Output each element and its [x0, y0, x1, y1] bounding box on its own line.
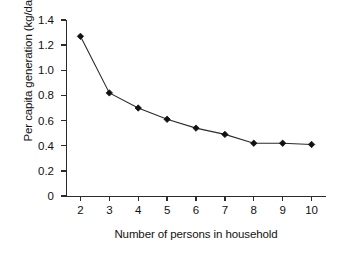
x-axis-tick: [138, 196, 139, 201]
y-axis-tick-label: 0.6: [38, 115, 54, 127]
y-axis-title: Per capita generation (kg/day): [22, 0, 34, 166]
y-axis-tick-label: 1.0: [38, 64, 54, 76]
data-point-marker: [222, 131, 228, 137]
data-point-marker: [308, 141, 314, 147]
data-point-marker: [135, 105, 141, 111]
x-axis-tick-label: 10: [305, 204, 318, 216]
x-axis-tick: [253, 196, 254, 201]
data-point-marker: [193, 125, 199, 131]
chart-figure: Per capita generation (kg/day) 00.20.40.…: [0, 0, 346, 254]
x-axis-tick-label: 5: [164, 204, 170, 216]
y-axis-tick-label: 0.8: [38, 89, 54, 101]
y-axis-tick-label: 0: [48, 190, 54, 202]
x-axis-tick: [311, 196, 312, 201]
x-axis-tick: [166, 196, 167, 201]
data-point-marker: [251, 140, 257, 146]
x-axis-title: Number of persons in household: [66, 228, 326, 240]
x-axis-tick: [80, 196, 81, 201]
x-axis-tick-label: 9: [279, 204, 285, 216]
x-axis-tick-label: 3: [106, 204, 112, 216]
data-series: [66, 20, 326, 196]
y-axis-tick-label: 1.2: [38, 39, 54, 51]
x-axis-tick: [109, 196, 110, 201]
x-axis-tick-label: 4: [135, 204, 141, 216]
x-axis-tick: [224, 196, 225, 201]
x-axis-tick-label: 8: [251, 204, 257, 216]
x-axis-tick: [282, 196, 283, 201]
x-axis-tick-label: 2: [77, 204, 83, 216]
data-point-marker: [279, 140, 285, 146]
data-point-marker: [164, 116, 170, 122]
x-axis-tick-label: 6: [193, 204, 199, 216]
plot-area: 00.20.40.60.81.01.21.4 2345678910: [66, 20, 326, 196]
data-point-marker: [77, 33, 83, 39]
x-axis-tick: [195, 196, 196, 201]
data-point-marker: [106, 90, 112, 96]
y-axis-tick-label: 1.4: [38, 14, 54, 26]
y-axis-tick-label: 0.2: [38, 165, 54, 177]
x-axis-tick-label: 7: [222, 204, 228, 216]
y-axis-tick-label: 0.4: [38, 140, 54, 152]
